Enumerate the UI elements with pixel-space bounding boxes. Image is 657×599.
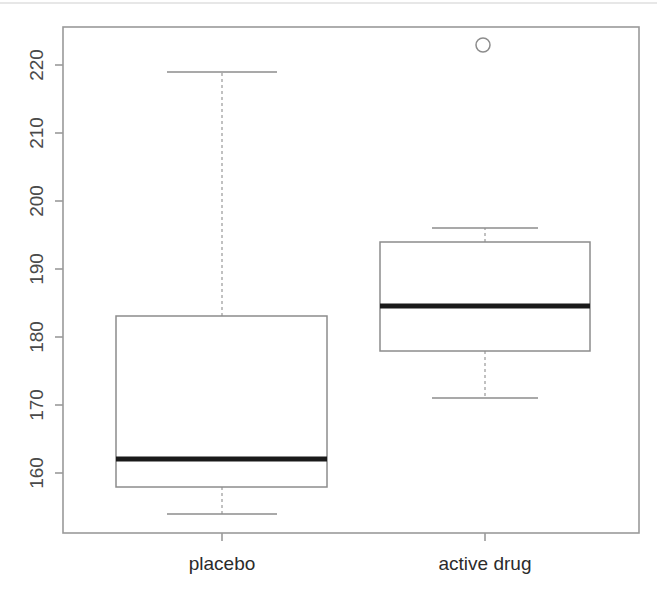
y-axis-ticks [55, 65, 63, 473]
y-tick-label-180: 180 [26, 321, 47, 353]
box-active-drug [380, 38, 590, 398]
boxplot-figure: 220 210 200 190 180 170 160 placebo acti… [0, 0, 657, 599]
y-axis-tick-labels: 220 210 200 190 180 170 160 [26, 49, 47, 489]
x-label-placebo: placebo [189, 553, 256, 574]
boxplot-svg: 220 210 200 190 180 170 160 placebo acti… [0, 0, 657, 599]
y-tick-label-160: 160 [26, 457, 47, 489]
active-drug-box [380, 242, 590, 351]
x-axis-ticks [222, 533, 485, 541]
y-tick-label-210: 210 [26, 117, 47, 149]
x-label-active-drug: active drug [439, 553, 532, 574]
active-drug-outlier-point [476, 38, 490, 52]
box-placebo [116, 72, 327, 514]
y-tick-label-170: 170 [26, 389, 47, 421]
y-tick-label-200: 200 [26, 185, 47, 217]
y-tick-label-220: 220 [26, 49, 47, 81]
x-axis-tick-labels: placebo active drug [189, 553, 532, 574]
y-tick-label-190: 190 [26, 253, 47, 285]
